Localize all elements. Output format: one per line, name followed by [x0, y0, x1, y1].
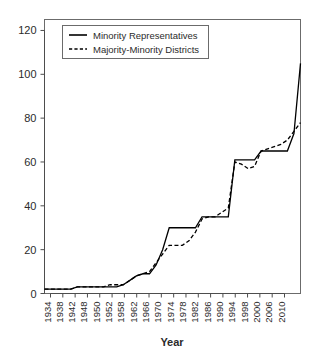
legend-label-majority-minority-districts: Majority-Minority Districts: [93, 44, 199, 55]
x-tick-label: 1942: [66, 302, 77, 323]
x-tick-label: 2006: [263, 302, 274, 323]
x-tick-label: 1970: [152, 302, 163, 323]
chart-figure: 020406080100120 193419381942194819501952…: [0, 0, 316, 363]
y-tick-label: 0: [30, 288, 36, 300]
x-tick-label: 1966: [140, 302, 151, 323]
legend-label-minority-representatives: Minority Representatives: [93, 30, 198, 41]
x-tick-label: 1978: [177, 302, 188, 323]
line-chart: 020406080100120 193419381942194819501952…: [0, 0, 316, 363]
x-tick-label: 1934: [42, 302, 53, 323]
x-tick-label: 1952: [103, 302, 114, 323]
y-tick-label: 120: [18, 24, 36, 36]
x-tick-label: 1982: [189, 302, 200, 323]
x-axis-title: Year: [160, 336, 184, 348]
x-tick-label: 1986: [202, 302, 213, 323]
y-tick-label: 80: [24, 112, 36, 124]
x-tick-label: 1948: [78, 302, 89, 323]
x-tick-label: 1950: [91, 302, 102, 323]
y-tick-label: 60: [24, 156, 36, 168]
x-tick-label: 1994: [226, 302, 237, 323]
x-tick-label: 1974: [165, 302, 176, 323]
x-tick-label: 1958: [115, 302, 126, 323]
x-tick-label: 2010: [276, 302, 287, 323]
y-tick-label: 100: [18, 68, 36, 80]
x-tick-label: 1998: [239, 302, 250, 323]
chart-legend: Minority Representatives Majority-Minori…: [63, 26, 209, 59]
x-tick-label: 1938: [54, 302, 65, 323]
x-tick-label: 2000: [251, 302, 262, 323]
x-tick-label: 1962: [128, 302, 139, 323]
y-tick-label: 40: [24, 200, 36, 212]
y-tick-label: 20: [24, 244, 36, 256]
x-tick-label: 1990: [214, 302, 225, 323]
